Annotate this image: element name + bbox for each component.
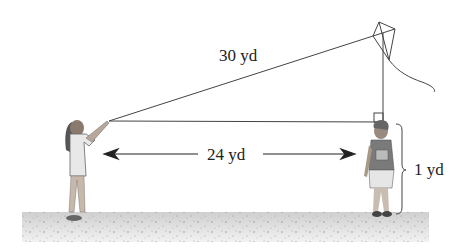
height-brace [396, 124, 406, 214]
kite-diagram [0, 0, 472, 250]
horizontal-line [109, 121, 383, 122]
horizontal-distance-label: 24 yd [207, 146, 245, 163]
hypotenuse-label: 30 yd [219, 47, 257, 64]
kite-icon [373, 22, 435, 92]
ground [22, 212, 429, 242]
child-figure [364, 120, 394, 217]
height-offset-label: 1 yd [414, 161, 444, 178]
girl-figure [65, 120, 109, 221]
